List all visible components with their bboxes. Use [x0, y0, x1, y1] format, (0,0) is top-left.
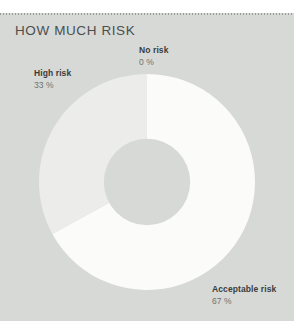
page-title: HOW MUCH RISK — [15, 23, 135, 38]
chart-label-no-risk-name: No risk — [139, 45, 169, 56]
chart-label-high-risk-name: High risk — [34, 68, 71, 79]
donut-chart — [39, 74, 255, 290]
chart-label-acceptable-risk-value: 67 % — [212, 296, 276, 307]
donut-center-hole — [104, 139, 190, 225]
perforation-divider — [0, 13, 294, 15]
risk-chart-card: HOW MUCH RISK No risk 0 % High risk 33 %… — [0, 0, 294, 321]
donut-chart-svg — [39, 74, 255, 290]
chart-label-no-risk: No risk 0 % — [139, 45, 169, 67]
chart-label-no-risk-value: 0 % — [139, 57, 169, 68]
chart-label-high-risk-value: 33 % — [34, 80, 71, 91]
chart-label-acceptable-risk: Acceptable risk 67 % — [212, 284, 276, 306]
chart-label-high-risk: High risk 33 % — [34, 68, 71, 90]
chart-label-acceptable-risk-name: Acceptable risk — [212, 284, 276, 295]
top-white-strip — [0, 0, 294, 13]
